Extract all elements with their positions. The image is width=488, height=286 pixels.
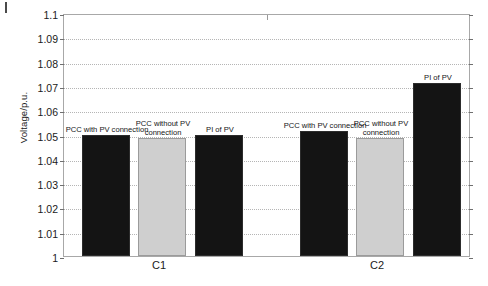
- top-frame-tick: [267, 15, 268, 20]
- y-axis-tick-label: 1.04: [38, 155, 58, 167]
- y-axis-tick-mark: [469, 15, 473, 16]
- y-axis-tick-label: 1.02: [38, 203, 58, 215]
- y-axis-tick-mark: [60, 137, 64, 138]
- y-axis-tick-mark: [469, 258, 473, 259]
- y-axis-tick-mark: [469, 64, 473, 65]
- y-axis-tick-mark: [469, 234, 473, 235]
- gridline: [64, 112, 469, 113]
- y-axis-tick-mark: [60, 209, 64, 210]
- y-axis-tick-mark: [469, 209, 473, 210]
- y-axis-tick-label: 1.1: [43, 9, 58, 21]
- y-axis-tick-label: 1.09: [38, 33, 58, 45]
- y-axis-tick-mark: [60, 15, 64, 16]
- y-axis-tick-label: 1.05: [38, 131, 58, 143]
- y-axis-tick-mark: [469, 161, 473, 162]
- y-axis-tick-label: 1.01: [38, 228, 58, 240]
- y-axis-tick-label: 1.07: [38, 82, 58, 94]
- bar: PCC with PV connection: [300, 131, 348, 256]
- gridline: [64, 39, 469, 40]
- y-axis-tick-label: 1.03: [38, 179, 58, 191]
- y-axis-tick-label: 1.08: [38, 58, 58, 70]
- y-axis-tick-label: 1.06: [38, 106, 58, 118]
- x-axis-group-label: C2: [317, 259, 437, 271]
- plot-area: 1.11.091.081.071.061.051.041.031.021.011…: [63, 14, 470, 257]
- gridline: [64, 64, 469, 65]
- bar-label: PI of PV: [177, 125, 263, 134]
- y-axis-tick-mark: [469, 137, 473, 138]
- y-axis-tick-mark: [60, 39, 64, 40]
- bar: PI of PV: [413, 83, 461, 256]
- y-axis-tick-mark: [469, 39, 473, 40]
- y-axis-tick-mark: [60, 88, 64, 89]
- bar: PI of PV: [195, 135, 243, 257]
- bar-label: PCC without PV connection: [338, 119, 424, 137]
- gridline: [64, 88, 469, 89]
- y-axis-title: Voltage/p.u.: [18, 73, 29, 163]
- y-axis-tick-mark: [60, 64, 64, 65]
- y-axis-tick-mark: [469, 88, 473, 89]
- bar-chart-figure: Voltage/p.u. 1.11.091.081.071.061.051.04…: [0, 0, 488, 286]
- scan-artifact-mark: [5, 2, 7, 13]
- y-axis-tick-mark: [60, 112, 64, 113]
- y-axis-tick-mark: [60, 258, 64, 259]
- y-axis-tick-mark: [60, 161, 64, 162]
- bar: PCC without PV connection: [138, 138, 186, 256]
- bar-label: PI of PV: [395, 73, 481, 82]
- y-axis-tick-mark: [469, 185, 473, 186]
- x-axis-group-label: C1: [99, 259, 219, 271]
- bar: PCC with PV connection: [82, 135, 130, 257]
- y-axis-tick-mark: [469, 112, 473, 113]
- y-axis-tick-mark: [60, 185, 64, 186]
- bar: PCC without PV connection: [356, 138, 404, 256]
- y-axis-tick-mark: [60, 234, 64, 235]
- y-axis-tick-label: 1: [52, 252, 58, 264]
